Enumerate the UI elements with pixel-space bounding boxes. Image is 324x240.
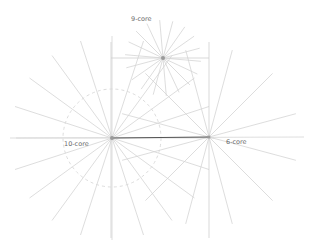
ray-six-core (209, 50, 232, 137)
ray-six-core (186, 137, 209, 224)
ray-six-core (122, 114, 209, 137)
rays-layer (10, 20, 296, 240)
node-10-core (110, 136, 114, 140)
ray-ten-core (112, 78, 195, 138)
ray-ten-core (52, 56, 112, 139)
ray-six-core (209, 73, 273, 137)
ray-six-core (186, 50, 209, 137)
label-9-core: 9-core (131, 15, 152, 23)
ray-six-core (209, 137, 232, 224)
ray-nine-core (136, 31, 163, 58)
ray-ten-core (112, 138, 209, 170)
ray-six-core (209, 137, 273, 201)
node-9-core (161, 56, 165, 60)
ray-six-core (145, 73, 209, 137)
label-6-core: 6-core (226, 138, 247, 146)
nodes-layer: 10-core 6-core 9-core (64, 15, 247, 148)
ray-nine-core (163, 58, 190, 85)
ray-ten-core (81, 138, 113, 235)
ray-ten-core (30, 78, 113, 138)
ray-ten-core (112, 138, 195, 198)
ray-six-core (209, 137, 296, 160)
node-6-core (208, 136, 211, 139)
ray-ten-core (112, 138, 172, 221)
ray-ten-core (52, 138, 112, 221)
label-10-core: 10-core (64, 140, 89, 148)
ray-six-core (209, 114, 296, 137)
ray-ten-core (81, 41, 113, 138)
ray-ten-core (112, 56, 172, 139)
core-diagram: 10-core 6-core 9-core (0, 0, 324, 240)
ray-six-core (122, 137, 209, 160)
